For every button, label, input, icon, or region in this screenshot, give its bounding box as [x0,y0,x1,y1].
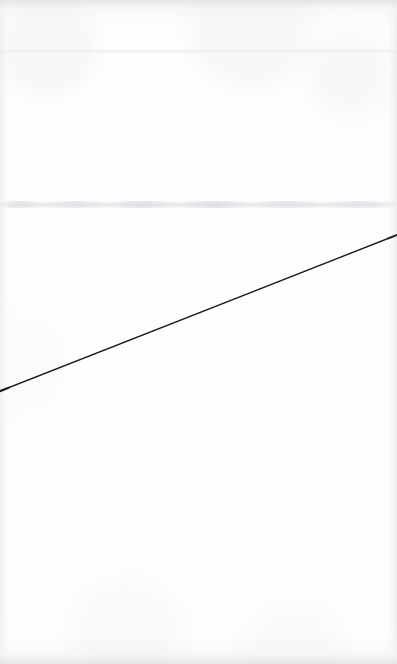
paper-background [0,0,397,664]
scanned-page: Scanned blank page with single diagonal … [0,0,397,664]
